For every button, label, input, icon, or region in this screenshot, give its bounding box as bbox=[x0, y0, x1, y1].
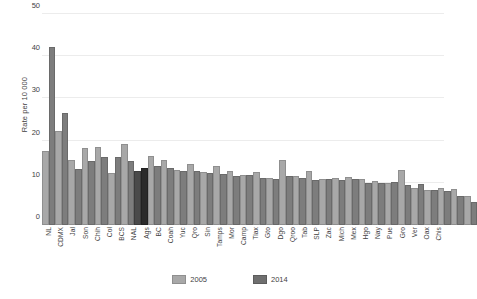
bar-group-mex[interactable] bbox=[372, 14, 385, 225]
bar-2014-mor[interactable] bbox=[246, 175, 253, 225]
bar-2005-slp[interactable] bbox=[332, 178, 339, 225]
bar-2005-camp[interactable] bbox=[253, 172, 260, 225]
bar-group-camp[interactable] bbox=[253, 14, 266, 225]
bar-group-nay[interactable] bbox=[398, 14, 411, 225]
bar-2014-qroo[interactable] bbox=[312, 180, 319, 225]
bar-2014-zac[interactable] bbox=[352, 179, 359, 225]
bar-group-bc[interactable] bbox=[161, 14, 174, 225]
bar-2005-mex[interactable] bbox=[372, 181, 379, 225]
bar-2005-qro[interactable] bbox=[200, 172, 207, 225]
bar-group-pue[interactable] bbox=[411, 14, 424, 225]
bar-2014-bc[interactable] bbox=[167, 168, 174, 225]
bar-group-jal[interactable] bbox=[68, 14, 81, 225]
bar-2005-jal[interactable] bbox=[68, 160, 75, 225]
bar-2005-gto[interactable] bbox=[279, 160, 286, 225]
bar-2005-yuc[interactable] bbox=[187, 164, 194, 225]
bar-2014-gro[interactable] bbox=[431, 190, 438, 225]
bar-2005-mich[interactable] bbox=[359, 179, 366, 225]
bar-2014-bcs[interactable] bbox=[128, 161, 135, 225]
bar-group-nal[interactable] bbox=[134, 14, 147, 225]
bar-2005-tab[interactable] bbox=[319, 179, 326, 225]
bar-2014-slp[interactable] bbox=[339, 180, 346, 225]
bar-2014-tlax[interactable] bbox=[273, 179, 280, 225]
bar-2005-qroo[interactable] bbox=[306, 171, 313, 225]
bar-2005-gro[interactable] bbox=[424, 190, 431, 225]
bar-2014-son[interactable] bbox=[88, 161, 95, 225]
bar-2005-pue[interactable] bbox=[411, 188, 418, 225]
bar-2005-ags[interactable] bbox=[148, 156, 155, 225]
bar-2005-zac[interactable] bbox=[345, 177, 352, 225]
bar-2014-tamps[interactable] bbox=[233, 176, 240, 225]
bar-group-nl[interactable] bbox=[42, 14, 55, 225]
bar-2014-dgo[interactable] bbox=[299, 178, 306, 225]
bar-2014-nl[interactable] bbox=[49, 47, 56, 225]
bar-group-col[interactable] bbox=[108, 14, 121, 225]
bar-group-son[interactable] bbox=[82, 14, 95, 225]
bar-group-gto[interactable] bbox=[279, 14, 292, 225]
bar-2014-nal[interactable] bbox=[141, 168, 148, 225]
bar-group-ags[interactable] bbox=[148, 14, 161, 225]
bar-2005-ver[interactable] bbox=[438, 188, 445, 225]
bar-2014-chih[interactable] bbox=[101, 157, 108, 225]
bar-2005-oax[interactable] bbox=[451, 189, 458, 225]
bar-2005-col[interactable] bbox=[108, 173, 115, 225]
bar-group-zac[interactable] bbox=[345, 14, 358, 225]
bar-2014-ver[interactable] bbox=[444, 191, 451, 225]
bar-2014-ags[interactable] bbox=[154, 166, 161, 225]
bar-2014-hgo[interactable] bbox=[391, 182, 398, 225]
bar-group-slp[interactable] bbox=[332, 14, 345, 225]
bar-2014-mex[interactable] bbox=[378, 183, 385, 225]
bar-2005-dgo[interactable] bbox=[293, 176, 300, 225]
bar-group-hgo[interactable] bbox=[385, 14, 398, 225]
bar-2005-bc[interactable] bbox=[161, 160, 168, 225]
bar-group-cdmx[interactable] bbox=[55, 14, 68, 225]
bar-group-tlax[interactable] bbox=[266, 14, 279, 225]
bar-group-oax[interactable] bbox=[451, 14, 464, 225]
bar-2005-hgo[interactable] bbox=[385, 183, 392, 226]
bar-2014-coah[interactable] bbox=[180, 171, 187, 225]
bar-2005-tlax[interactable] bbox=[266, 178, 273, 225]
bar-group-sin[interactable] bbox=[213, 14, 226, 225]
bar-2005-nal[interactable] bbox=[134, 171, 141, 225]
bar-group-chis[interactable] bbox=[464, 14, 477, 225]
bar-2005-nay[interactable] bbox=[398, 170, 405, 225]
bar-2014-pue[interactable] bbox=[418, 184, 425, 225]
bar-2014-col[interactable] bbox=[115, 157, 122, 225]
bar-2014-cdmx[interactable] bbox=[62, 113, 69, 225]
bar-group-gro[interactable] bbox=[424, 14, 437, 225]
bar-2005-son[interactable] bbox=[82, 148, 89, 225]
bar-2014-chis[interactable] bbox=[471, 202, 477, 225]
bar-group-mich[interactable] bbox=[359, 14, 372, 225]
bar-2005-sin[interactable] bbox=[213, 166, 220, 225]
bar-2014-yuc[interactable] bbox=[194, 171, 201, 225]
bar-2005-cdmx[interactable] bbox=[55, 131, 62, 225]
bar-group-mor[interactable] bbox=[240, 14, 253, 225]
bar-group-qroo[interactable] bbox=[306, 14, 319, 225]
legend-item-2005[interactable]: 2005 bbox=[172, 275, 207, 284]
bar-2005-nl[interactable] bbox=[42, 151, 49, 225]
legend-item-2014[interactable]: 2014 bbox=[253, 275, 288, 284]
bar-2005-chis[interactable] bbox=[464, 196, 471, 225]
bar-2014-mich[interactable] bbox=[365, 183, 372, 226]
bar-2014-tab[interactable] bbox=[326, 179, 333, 225]
bar-group-tab[interactable] bbox=[319, 14, 332, 225]
bar-2005-coah[interactable] bbox=[174, 170, 181, 225]
bar-group-chih[interactable] bbox=[95, 14, 108, 225]
bar-group-yuc[interactable] bbox=[187, 14, 200, 225]
bar-2014-oax[interactable] bbox=[457, 196, 464, 225]
bar-group-ver[interactable] bbox=[438, 14, 451, 225]
bar-2014-qro[interactable] bbox=[207, 173, 214, 225]
bar-group-tamps[interactable] bbox=[227, 14, 240, 225]
bar-2005-mor[interactable] bbox=[240, 175, 247, 225]
bar-group-coah[interactable] bbox=[174, 14, 187, 225]
bar-group-qro[interactable] bbox=[200, 14, 213, 225]
bar-2005-bcs[interactable] bbox=[121, 144, 128, 225]
bar-2014-camp[interactable] bbox=[260, 178, 267, 225]
bar-2014-nay[interactable] bbox=[405, 185, 412, 225]
bar-2014-jal[interactable] bbox=[75, 169, 82, 225]
bar-2005-tamps[interactable] bbox=[227, 171, 234, 225]
bar-2014-sin[interactable] bbox=[220, 174, 227, 225]
bar-2005-chih[interactable] bbox=[95, 147, 102, 225]
bar-2014-gto[interactable] bbox=[286, 176, 293, 225]
bar-group-dgo[interactable] bbox=[293, 14, 306, 225]
